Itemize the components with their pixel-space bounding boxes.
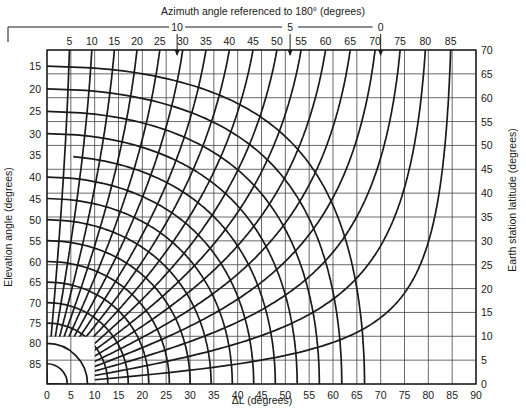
top-tick-label: 80 xyxy=(419,35,431,47)
x-tick-label: 55 xyxy=(303,389,315,401)
top-axis-title: Azimuth angle referenced to 180° (degree… xyxy=(161,5,365,17)
top-tick-label: 15 xyxy=(109,35,121,47)
left-tick-label: 15 xyxy=(29,60,41,72)
top-tick-label: 10 xyxy=(86,35,98,47)
top-tick-label: 45 xyxy=(247,35,259,47)
x-tick-label: 25 xyxy=(160,389,172,401)
right-tick-label: 5 xyxy=(481,354,487,366)
top-tick-label: 60 xyxy=(320,35,332,47)
left-tick-label: 50 xyxy=(29,214,41,226)
x-tick-label: 35 xyxy=(208,389,220,401)
right-tick-label: 60 xyxy=(481,92,493,104)
top-tick-label: 85 xyxy=(445,35,457,47)
x-tick-label: 70 xyxy=(375,389,387,401)
left-tick-label: 20 xyxy=(29,83,41,95)
azimuth-elevation-chart: 051015202530354045505560657075808590 051… xyxy=(0,0,526,420)
top-axis-azimuth: 5101520253035404550556065707580851050 xyxy=(8,21,457,56)
x-tick-label: 85 xyxy=(446,389,458,401)
arrow-down-icon xyxy=(288,50,293,56)
x-tick-label: 30 xyxy=(184,389,196,401)
right-tick-label: 40 xyxy=(481,187,493,199)
top-tick-label: 50 xyxy=(271,35,283,47)
top-tick-label: 20 xyxy=(131,35,143,47)
right-tick-label: 20 xyxy=(481,283,493,295)
right-tick-label: 55 xyxy=(481,116,493,128)
left-tick-label: 35 xyxy=(29,149,41,161)
right-tick-label: 25 xyxy=(481,259,493,271)
x-tick-label: 90 xyxy=(470,389,482,401)
x-tick-label: 65 xyxy=(351,389,363,401)
left-tick-label: 80 xyxy=(29,337,41,349)
right-axis-title: Earth station latitude (degrees) xyxy=(506,128,518,272)
left-tick-label: 30 xyxy=(29,128,41,140)
right-tick-label: 70 xyxy=(481,44,493,56)
top-tick-label: 65 xyxy=(344,35,356,47)
right-tick-label: 15 xyxy=(481,306,493,318)
x-tick-label: 0 xyxy=(44,389,50,401)
right-tick-label: 65 xyxy=(481,68,493,80)
top-tick-label: 5 xyxy=(66,35,72,47)
top-tick-label: 70 xyxy=(369,35,381,47)
left-tick-label: 60 xyxy=(29,256,41,268)
top-tick-label: 30 xyxy=(177,35,189,47)
y-axis-latitude: 0510152025303540455055606570 xyxy=(481,44,493,390)
x-tick-label: 10 xyxy=(89,389,101,401)
y-axis-elevation: 152025303540455055606570758085 xyxy=(29,60,41,370)
left-tick-label: 55 xyxy=(29,235,41,247)
right-tick-label: 45 xyxy=(481,163,493,175)
marker-label: 10 xyxy=(171,21,183,33)
x-tick-label: 20 xyxy=(136,389,148,401)
left-tick-label: 75 xyxy=(29,317,41,329)
left-tick-label: 65 xyxy=(29,276,41,288)
x-tick-label: 60 xyxy=(327,389,339,401)
x-tick-label: 5 xyxy=(68,389,74,401)
marker-label: 5 xyxy=(287,21,293,33)
left-tick-label: 70 xyxy=(29,297,41,309)
left-tick-label: 45 xyxy=(29,193,41,205)
right-tick-label: 50 xyxy=(481,139,493,151)
right-tick-label: 10 xyxy=(481,330,493,342)
right-tick-label: 0 xyxy=(481,378,487,390)
x-tick-label: 15 xyxy=(113,389,125,401)
left-tick-label: 25 xyxy=(29,105,41,117)
left-tick-label: 85 xyxy=(29,358,41,370)
top-tick-label: 55 xyxy=(295,35,307,47)
top-tick-label: 40 xyxy=(224,35,236,47)
marker-label: 0 xyxy=(378,21,384,33)
x-tick-label: 75 xyxy=(399,389,411,401)
arrow-down-icon xyxy=(175,50,180,56)
left-axis-title: Elevation angle (degrees) xyxy=(2,167,14,287)
top-tick-label: 75 xyxy=(394,35,406,47)
arrow-down-icon xyxy=(378,50,383,56)
top-tick-label: 25 xyxy=(154,35,166,47)
top-tick-label: 35 xyxy=(200,35,212,47)
x-tick-label: 80 xyxy=(422,389,434,401)
right-tick-label: 35 xyxy=(481,211,493,223)
x-axis-title: ΔL (degrees) xyxy=(232,394,292,406)
left-tick-label: 40 xyxy=(29,171,41,183)
right-tick-label: 30 xyxy=(481,235,493,247)
